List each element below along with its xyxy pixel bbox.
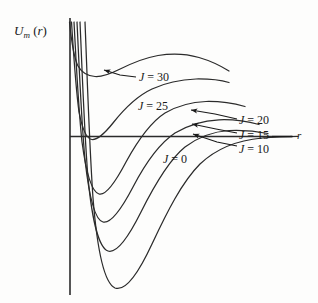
y-axis-label: Um (r) bbox=[14, 24, 47, 40]
curve-label-j15: J = 15 bbox=[239, 129, 269, 141]
leader-j15 bbox=[192, 124, 237, 133]
potential-energy-figure: Um (r) r J = 30 J = 25 J = 20 J = 15 J =… bbox=[0, 0, 318, 303]
curve-label-j20: J = 20 bbox=[239, 114, 269, 126]
y-axis-label-paren-close: ) bbox=[43, 23, 47, 38]
curve-label-j0: J = 0 bbox=[163, 153, 187, 165]
curve-label-j10: J = 10 bbox=[239, 143, 269, 155]
curve-label-j25: J = 25 bbox=[138, 100, 168, 112]
y-axis-label-subscript: m bbox=[23, 30, 30, 40]
curve-label-j30: J = 30 bbox=[139, 71, 169, 83]
y-axis-label-main: U bbox=[14, 23, 23, 38]
x-axis-label: r bbox=[297, 130, 301, 141]
leader-j20 bbox=[191, 110, 237, 119]
plot-canvas bbox=[0, 0, 318, 303]
curve-j30 bbox=[70, 22, 230, 77]
